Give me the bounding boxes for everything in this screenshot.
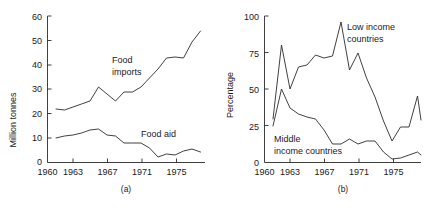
panel-a-xtick-1960: 1960 (37, 167, 57, 177)
panel-b-label-middle-income-line1: Middle (274, 134, 301, 144)
panel-b-xtick-1971: 1971 (349, 167, 369, 177)
panel-a-series-food-aid (56, 129, 201, 157)
chart-panel-a: Million tonnes 60 50 40 30 20 10 0 (0, 0, 213, 213)
panel-a-ytick-20: 20 (32, 109, 42, 119)
panel-b-xtick-1975: 1975 (383, 167, 403, 177)
panel-a-x-tick-marks (73, 159, 177, 163)
panel-b-ytick-75: 75 (249, 49, 259, 59)
panel-b-ytick-25: 25 (249, 122, 259, 132)
panel-a-ytick-40: 40 (32, 60, 42, 70)
panel-a-ytick-10: 10 (32, 133, 42, 143)
panel-a-ytick-0: 0 (37, 157, 42, 167)
panel-a-ytick-50: 50 (32, 36, 42, 46)
panel-b-xtick-1963: 1963 (280, 167, 300, 177)
panel-b-xtick-1967: 1967 (314, 167, 334, 177)
panel-a-xtick-1975: 1975 (166, 167, 186, 177)
panel-b-ytick-50: 50 (249, 85, 259, 95)
panel-b-label-low-income-line2: countries (347, 34, 384, 44)
panel-a-label-food-imports-line2: imports (112, 67, 142, 77)
panel-a-ytick-60: 60 (32, 12, 42, 22)
panel-b-xtick-1960: 1960 (254, 167, 274, 177)
panel-a-caption: (a) (121, 184, 132, 194)
panel-a-ytick-30: 30 (32, 84, 42, 94)
panel-a-xtick-1971: 1971 (132, 167, 152, 177)
panel-b-caption: (b) (338, 184, 349, 194)
figure-two-panel-line-charts: Million tonnes 60 50 40 30 20 10 0 (0, 0, 427, 213)
panel-a-xtick-1967: 1967 (97, 167, 117, 177)
panel-b-y-tick-marks (265, 16, 269, 126)
panel-b-ytick-100: 100 (244, 12, 259, 22)
panel-a-label-food-aid: Food aid (141, 129, 176, 139)
panel-b-label-low-income-line1: Low income (347, 22, 395, 32)
panel-b-x-tick-marks (290, 159, 394, 163)
panel-a-y-tick-marks (48, 16, 52, 138)
panel-a-y-axis-title: Million tonnes (8, 92, 18, 148)
panel-b-label-middle-income-line2: income countries (274, 146, 343, 156)
panel-a-xtick-1963: 1963 (63, 167, 83, 177)
panel-b-y-axis-title: Percentage (225, 72, 235, 118)
panel-a-label-food-imports-line1: Food (112, 55, 133, 65)
chart-panel-b: Percentage 100 75 50 25 0 (214, 0, 427, 213)
